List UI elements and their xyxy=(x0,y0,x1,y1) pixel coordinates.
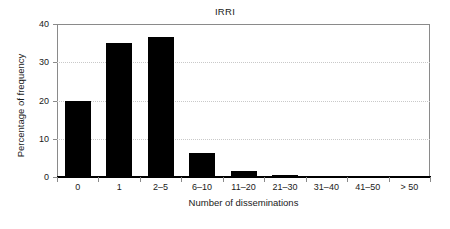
chart-figure: IRRI 010203040 012–56–1011–2021–3031–404… xyxy=(0,0,450,229)
bar xyxy=(148,37,174,177)
y-tick-mark xyxy=(53,101,57,102)
chart-title: IRRI xyxy=(0,6,450,17)
x-tick-label: 0 xyxy=(75,182,80,192)
x-tick-mark xyxy=(389,177,390,182)
bar xyxy=(65,101,91,178)
bar xyxy=(106,43,132,177)
x-axis-label: Number of disseminations xyxy=(57,197,430,208)
x-tick-label: > 50 xyxy=(400,182,418,192)
bar xyxy=(396,176,422,177)
y-axis-label: Percentage of frequency xyxy=(15,31,26,181)
x-tick-mark xyxy=(264,177,265,182)
bar xyxy=(313,176,339,177)
x-tick-label: 1 xyxy=(117,182,122,192)
bar xyxy=(231,171,257,177)
x-tick-label: 21–30 xyxy=(272,182,297,192)
x-tick-mark xyxy=(347,177,348,182)
y-tick-mark xyxy=(53,62,57,63)
bar xyxy=(272,175,298,177)
y-tick-mark xyxy=(53,24,57,25)
x-tick-mark xyxy=(306,177,307,182)
x-tick-label: 2–5 xyxy=(153,182,168,192)
y-tick-label: 40 xyxy=(0,19,49,29)
bar xyxy=(355,176,381,177)
y-tick-mark xyxy=(53,139,57,140)
x-tick-mark xyxy=(57,177,58,182)
x-tick-mark xyxy=(223,177,224,182)
x-tick-mark xyxy=(98,177,99,182)
x-tick-label: 41–50 xyxy=(355,182,380,192)
x-tick-mark xyxy=(140,177,141,182)
x-tick-label: 31–40 xyxy=(314,182,339,192)
x-tick-mark xyxy=(430,177,431,182)
x-tick-mark xyxy=(181,177,182,182)
x-tick-label: 6–10 xyxy=(192,182,212,192)
bar xyxy=(189,153,215,177)
x-tick-label: 11–20 xyxy=(231,182,255,192)
